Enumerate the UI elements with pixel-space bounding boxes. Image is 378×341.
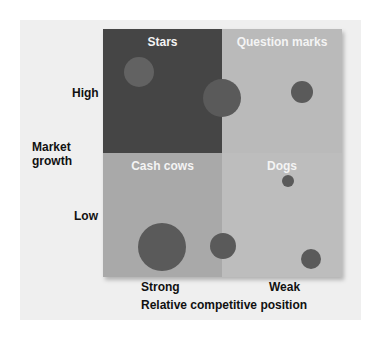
business-unit-circle <box>291 81 313 103</box>
x-axis-weak-label: Weak <box>269 280 300 294</box>
y-axis-low-label: Low <box>74 209 98 223</box>
business-unit-circle <box>124 57 154 87</box>
quadrant-label-question-marks: Question marks <box>222 35 342 49</box>
quadrant-label-dogs: Dogs <box>222 159 342 173</box>
y-axis-title: Market growth <box>32 140 72 168</box>
y-axis-high-label: High <box>72 86 99 100</box>
x-axis-title: Relative competitive position <box>141 298 307 312</box>
business-unit-circle <box>203 79 241 117</box>
business-unit-circle <box>138 223 186 271</box>
quadrant-dogs: Dogs <box>222 153 342 277</box>
business-unit-circle <box>282 175 294 187</box>
y-axis-title-line1: Market <box>32 140 72 154</box>
business-unit-circle <box>301 249 321 269</box>
y-axis-title-line2: growth <box>32 154 72 168</box>
x-axis-strong-label: Strong <box>141 280 180 294</box>
quadrant-label-stars: Stars <box>103 35 222 49</box>
business-unit-circle <box>210 233 236 259</box>
quadrant-label-cash-cows: Cash cows <box>103 159 222 173</box>
